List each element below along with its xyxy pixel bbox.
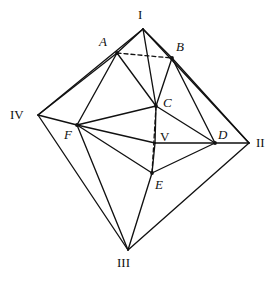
- vertex-label-I: I: [138, 8, 142, 21]
- solid-edge-IV-III: [38, 115, 128, 250]
- vertex-label-V: V: [160, 130, 169, 143]
- vertex-label-F: F: [64, 128, 72, 141]
- solid-edge-III-E: [128, 173, 152, 250]
- solid-edge-IV-A: [38, 53, 117, 115]
- vertex-label-B: B: [176, 40, 184, 53]
- vertex-dot-A: [115, 51, 119, 55]
- vertex-label-A: A: [99, 35, 107, 48]
- solid-edge-F-E: [77, 125, 152, 173]
- vertex-dot-B: [170, 56, 174, 60]
- solid-edge-E-D: [152, 143, 215, 173]
- solid-edge-II-III: [128, 143, 249, 250]
- solid-edge-A-C: [117, 53, 156, 106]
- vertex-label-III: III: [117, 256, 130, 269]
- vertex-dot-D: [213, 141, 217, 145]
- dashed-edge-A-B: [117, 53, 172, 58]
- vertex-dot-E: [150, 171, 154, 175]
- vertex-label-E: E: [155, 178, 163, 191]
- vertex-label-D: D: [218, 128, 227, 141]
- solid-edge-III-F: [77, 125, 128, 250]
- geometry-figure: IIIIIIIVABCDEFV: [0, 0, 280, 282]
- octahedron-diagram-canvas: [0, 0, 280, 282]
- vertex-dot-F: [75, 123, 79, 127]
- solid-edge-C-F: [77, 106, 156, 125]
- vertex-label-C: C: [163, 96, 172, 109]
- vertex-label-II: II: [256, 136, 265, 149]
- vertex-label-IV: IV: [10, 108, 24, 121]
- vertex-dot-C: [154, 104, 158, 108]
- solid-edge-A-F: [77, 53, 117, 125]
- solid-edge-II-B: [172, 58, 249, 143]
- solid-edge-F-V: [77, 125, 155, 143]
